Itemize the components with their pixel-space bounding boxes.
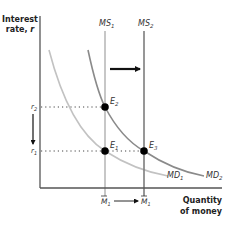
md2-label: MD2 <box>206 171 223 181</box>
point-e3 <box>140 147 148 155</box>
ms1-label: MS1 <box>99 19 114 29</box>
y-axis-title-line2: rate, r <box>6 25 35 34</box>
y-axis-title-line1: Interest <box>2 15 38 24</box>
md1-label: MD1 <box>167 171 184 181</box>
point-e1 <box>101 147 109 155</box>
m1-label: M1 <box>101 197 111 207</box>
point-e2 <box>101 103 109 111</box>
x-axis-title-line2: of money <box>180 207 223 216</box>
r1-label: r1 <box>31 147 37 156</box>
x-axis-title-line1: Quantity <box>183 196 223 205</box>
r2-label: r2 <box>31 103 37 112</box>
ms2-label: MS2 <box>138 19 154 29</box>
e1-label: E1 <box>110 141 119 151</box>
m2-label: M1 <box>141 197 151 207</box>
money-market-diagram: Interest rate, r MS1 MS2 r2 r1 E2 E1 E3 … <box>0 0 236 226</box>
e3-label: E3 <box>149 141 158 151</box>
e2-label: E2 <box>110 97 119 107</box>
